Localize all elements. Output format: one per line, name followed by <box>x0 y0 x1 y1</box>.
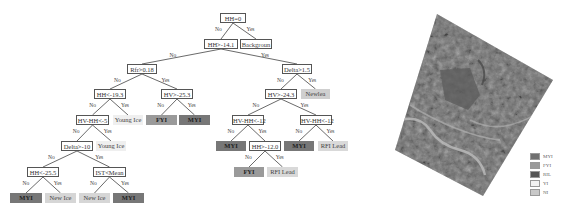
legend-swatch <box>530 162 540 169</box>
legend-item-ril: RIL <box>530 170 553 178</box>
legend-label: MYI <box>543 154 553 159</box>
classification-map <box>0 0 563 209</box>
sea-ice-map-image <box>0 0 563 209</box>
legend-item-myi: MYI <box>530 152 553 160</box>
map-legend: MYI FYI RIL YI NI <box>530 152 553 197</box>
legend-swatch <box>530 180 540 187</box>
legend-swatch <box>530 189 540 196</box>
legend-item-yi: YI <box>530 179 553 187</box>
legend-swatch <box>530 171 540 178</box>
legend-swatch <box>530 153 540 160</box>
legend-label: NI <box>543 190 548 195</box>
legend-label: YI <box>543 181 548 186</box>
legend-label: FYI <box>543 163 551 168</box>
legend-item-fyi: FYI <box>530 161 553 169</box>
legend-item-ni: NI <box>530 188 553 196</box>
legend-label: RIL <box>543 172 551 177</box>
